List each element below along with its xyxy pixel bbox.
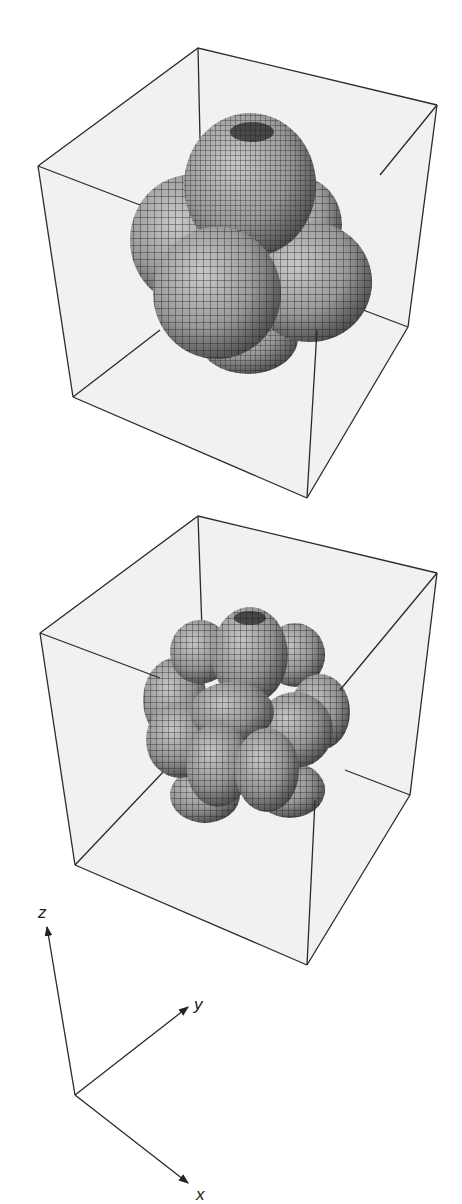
y-axis-label: y [193,995,204,1014]
axis-triad: z y x [0,895,462,1204]
top-plot [0,0,462,510]
x-axis-arrow [75,1095,188,1183]
z-axis-arrow [47,927,75,1095]
z-axis-label: z [37,903,47,922]
y-axis-arrow [75,1007,188,1095]
surface-lobes [143,607,350,823]
axis-triad-canvas: z y x [0,895,462,1204]
top-plot-canvas [0,0,462,510]
x-axis-label: x [195,1185,205,1204]
